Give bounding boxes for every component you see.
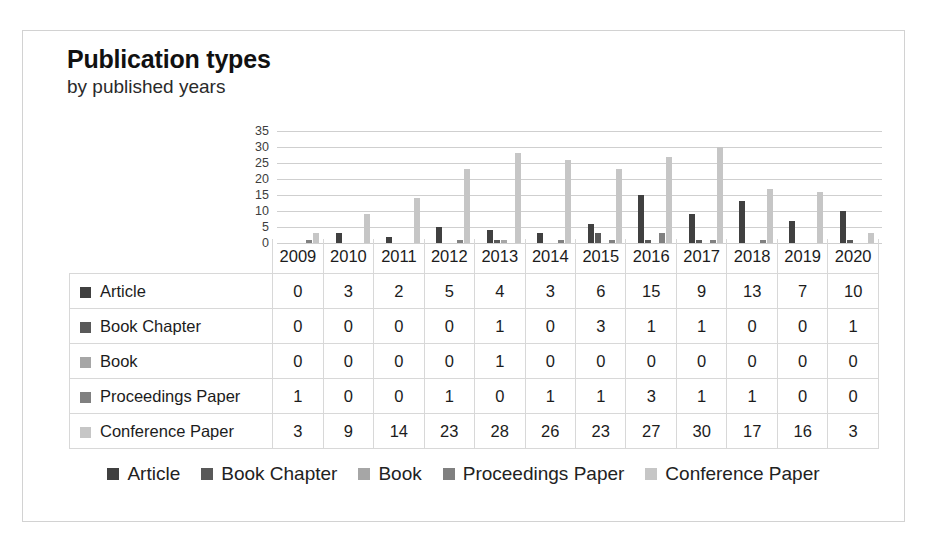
table-header-row: 2009201020112012201320142015201620172018… (70, 239, 879, 274)
series-name: Conference Paper (100, 422, 234, 440)
series-name: Proceedings Paper (100, 387, 240, 405)
table-cell: 9 (676, 274, 726, 309)
table-cell: 1 (475, 309, 525, 344)
table-cell: 0 (727, 309, 777, 344)
y-axis-tick-label: 10 (255, 205, 269, 217)
table-corner-cell (70, 239, 273, 274)
table-cell: 1 (828, 309, 879, 344)
table-body: Article032543615913710Book Chapter000010… (70, 274, 879, 449)
bar-group-2020 (832, 131, 882, 243)
bar-group-2017 (680, 131, 730, 243)
table-cell: 1 (626, 309, 676, 344)
table-row-label: Article (70, 274, 273, 309)
table-row: Book Chapter000010311001 (70, 309, 879, 344)
legend-item[interactable]: Book (358, 463, 421, 485)
chart-title: Publication types (67, 44, 271, 74)
table-cell: 28 (475, 414, 525, 449)
bar-group-2011 (378, 131, 428, 243)
bar (767, 189, 773, 243)
table-year-header-2020: 2020 (828, 239, 879, 274)
table-cell: 5 (424, 274, 474, 309)
table-row: Book000010000000 (70, 344, 879, 379)
bar (464, 169, 470, 243)
y-axis-tick-label: 5 (262, 221, 269, 233)
legend-swatch-icon (443, 468, 455, 480)
table-cell: 3 (323, 274, 373, 309)
table-cell: 0 (374, 344, 424, 379)
bar-group-2019 (781, 131, 831, 243)
legend-label: Conference Paper (665, 463, 819, 485)
table-cell: 0 (676, 344, 726, 379)
legend-item[interactable]: Proceedings Paper (443, 463, 625, 485)
y-axis-tick-label: 20 (255, 173, 269, 185)
table-cell: 0 (576, 344, 626, 379)
table-cell: 0 (424, 309, 474, 344)
bar (717, 147, 723, 243)
table-year-header-2017: 2017 (676, 239, 726, 274)
table-cell: 3 (828, 414, 879, 449)
table-year-header-2011: 2011 (374, 239, 424, 274)
bar (666, 157, 672, 243)
table-cell: 0 (828, 379, 879, 414)
bar-group-2013 (479, 131, 529, 243)
series-name: Book Chapter (100, 317, 201, 335)
bar-group-2010 (327, 131, 377, 243)
legend-label: Proceedings Paper (463, 463, 625, 485)
bar-groups (277, 131, 882, 243)
legend-item[interactable]: Book Chapter (201, 463, 337, 485)
bar-group-2009 (277, 131, 327, 243)
table-cell: 26 (525, 414, 575, 449)
table-cell: 0 (273, 309, 323, 344)
table-cell: 13 (727, 274, 777, 309)
table-cell: 3 (525, 274, 575, 309)
y-axis-tick-label: 30 (255, 141, 269, 153)
table-row-label: Book (70, 344, 273, 379)
bar (414, 198, 420, 243)
table-year-header-2014: 2014 (525, 239, 575, 274)
table-cell: 7 (777, 274, 827, 309)
table-cell: 0 (828, 344, 879, 379)
table-year-header-2013: 2013 (475, 239, 525, 274)
chart-legend: ArticleBook ChapterBookProceedings Paper… (23, 463, 904, 485)
table-cell: 0 (727, 344, 777, 379)
table-row: Conference Paper391423282623273017163 (70, 414, 879, 449)
table-cell: 0 (626, 344, 676, 379)
legend-label: Article (127, 463, 180, 485)
y-axis-tick-label: 15 (255, 189, 269, 201)
bar (616, 169, 622, 243)
publication-types-chart-card: Publication types by published years 353… (22, 30, 905, 522)
table-cell: 1 (676, 309, 726, 344)
series-swatch-icon (80, 427, 91, 438)
table-cell: 0 (777, 309, 827, 344)
plot-area (277, 131, 882, 243)
table-row: Article032543615913710 (70, 274, 879, 309)
legend-swatch-icon (645, 468, 657, 480)
title-block: Publication types by published years (67, 44, 271, 99)
table-cell: 3 (576, 309, 626, 344)
series-name: Book (100, 352, 138, 370)
table-cell: 9 (323, 414, 373, 449)
legend-swatch-icon (201, 468, 213, 480)
series-swatch-icon (80, 322, 91, 333)
table-cell: 23 (576, 414, 626, 449)
table-cell: 23 (424, 414, 474, 449)
table-cell: 1 (576, 379, 626, 414)
table-cell: 1 (424, 379, 474, 414)
table-cell: 1 (525, 379, 575, 414)
table-year-header-2010: 2010 (323, 239, 373, 274)
legend-item[interactable]: Article (107, 463, 180, 485)
table-cell: 27 (626, 414, 676, 449)
table-year-header-2012: 2012 (424, 239, 474, 274)
table-cell: 0 (475, 379, 525, 414)
bar-group-2016 (630, 131, 680, 243)
table-cell: 0 (323, 379, 373, 414)
table-cell: 0 (374, 379, 424, 414)
table-cell: 17 (727, 414, 777, 449)
table-cell: 0 (273, 274, 323, 309)
legend-label: Book (378, 463, 421, 485)
bar-group-2018 (731, 131, 781, 243)
legend-item[interactable]: Conference Paper (645, 463, 819, 485)
series-swatch-icon (80, 287, 91, 298)
series-swatch-icon (80, 392, 91, 403)
table-cell: 0 (525, 309, 575, 344)
